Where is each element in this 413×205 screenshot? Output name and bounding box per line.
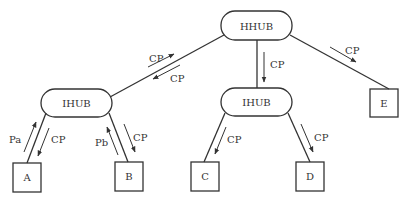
hub-network-diagram: CP CP CP CP Pa CP Pb CP CP CP HHUB IHUB … [0,0,413,205]
label-cp-to-d: CP [314,132,329,143]
link-hhub-ihub-left [110,35,224,97]
label-pa: Pa [9,134,21,145]
node-b: B [115,162,143,191]
node-b-label: B [125,171,132,182]
label-pb: Pb [95,137,108,148]
label-cp-to-c: CP [227,134,242,145]
label-cp-to-e: CP [345,45,360,56]
link-hhub-e [290,35,389,89]
arrow-pa-to-ihub [24,122,36,152]
node-a-label: A [22,172,31,183]
node-e: E [370,89,398,117]
label-cp-to-ihub-mid: CP [270,59,285,70]
link-ihub-left-b [109,113,128,162]
node-d-label: D [306,171,314,182]
message-labels: CP CP CP CP Pa CP Pb CP CP CP [9,45,360,148]
ihub-left-label: IHUB [62,98,90,109]
label-cp-to-a: CP [51,134,66,145]
node-hhub: HHUB [221,11,292,40]
arrow-cp-to-a [38,128,49,156]
node-d: D [296,162,324,191]
arrow-cp-to-d [301,124,313,152]
node-ihub-mid: IHUB [221,88,292,116]
node-e-label: E [380,98,387,109]
node-ihub-left: IHUB [41,89,112,117]
node-c-label: C [201,171,209,182]
node-c: C [191,162,219,191]
label-cp-to-ihub-left: CP [170,73,185,84]
node-a: A [13,163,41,192]
ihub-mid-label: IHUB [242,97,270,108]
label-cp-to-b: CP [133,132,148,143]
hhub-label: HHUB [240,21,273,32]
label-cp-to-hhub: CP [149,53,164,64]
